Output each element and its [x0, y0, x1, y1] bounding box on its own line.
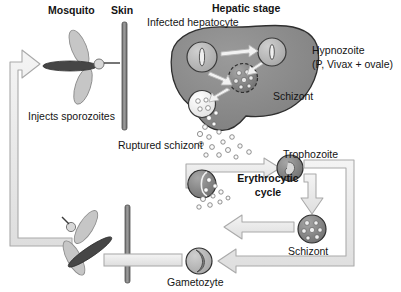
hypnozoite-cell — [258, 38, 286, 66]
label-hypnozoite: Hypnozoite — [312, 44, 365, 56]
label-erythrocytic-cycle-line2: cycle — [222, 186, 314, 198]
label-hepatic-stage: Hepatic stage — [212, 2, 280, 14]
malaria-lifecycle-diagram: Mosquito Skin Hepatic stage Infected hep… — [0, 0, 401, 292]
skin-bar-lower — [125, 205, 130, 283]
label-infected-hepatocyte: Infected hepatocyte — [147, 16, 239, 28]
label-hypnozoite-species: (P, Vivax + ovale) — [312, 58, 393, 70]
label-blood-schizont: Schizont — [288, 245, 328, 257]
blood-schizont-cell — [298, 215, 326, 243]
infected-hepatocyte-cell — [187, 42, 217, 72]
skin-bar-upper — [122, 22, 127, 130]
mosquito-bottom-icon — [59, 207, 114, 278]
label-injects-sporozoites: Injects sporozoites — [28, 110, 115, 122]
label-liver-schizont: Schizont — [273, 90, 313, 102]
gametocyte-to-mosquito-band — [104, 254, 182, 266]
label-skin: Skin — [111, 4, 133, 16]
label-erythrocytic-cycle-line1: Erythrocytic — [222, 172, 314, 184]
label-ruptured-schizont: Ruptured schizont — [118, 139, 203, 151]
mosquito-top-icon — [43, 28, 120, 107]
label-gametocyte: Gametozyte — [167, 276, 224, 288]
label-mosquito: Mosquito — [48, 4, 95, 16]
gametocyte-cell — [186, 248, 212, 274]
schizont-to-rupture-arrow — [224, 215, 294, 239]
label-trophozoite: Trophozoite — [283, 148, 338, 160]
